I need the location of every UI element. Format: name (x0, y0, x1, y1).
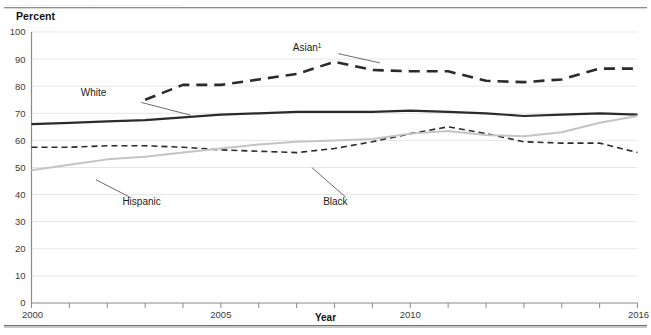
series-lines (32, 62, 638, 170)
x-tick-label-2016: 2016 (628, 309, 649, 320)
y-tick-label-40: 40 (15, 189, 26, 200)
series-annotations: WhiteHispanicBlackAsian1 (81, 42, 380, 208)
series-line-hispanic (32, 116, 638, 170)
series-label-white: White (81, 87, 107, 98)
x-tick-label-2000: 2000 (22, 309, 43, 320)
leader-line-black (312, 168, 346, 198)
leader-line-asian (338, 54, 380, 63)
x-axis: 2000200520102016 (22, 303, 649, 320)
y-tick-label-60: 60 (15, 135, 26, 146)
series-label-hispanic: Hispanic (122, 196, 160, 207)
chart-figure: …………………………………………………………… Percent Year 010… (0, 0, 651, 335)
x-tick-label-2010: 2010 (400, 309, 421, 320)
bottom-divider-rule (4, 325, 647, 328)
series-line-white (32, 111, 638, 125)
y-axis: 0102030405060708090100 (10, 26, 32, 308)
series-label-black: Black (323, 196, 348, 207)
y-tick-label-20: 20 (15, 243, 26, 254)
asian-footnote-marker: 1 (318, 42, 322, 49)
y-tick-label-70: 70 (15, 108, 26, 119)
y-tick-label-10: 10 (15, 270, 26, 281)
y-tick-label-0: 0 (20, 297, 25, 308)
y-tick-label-90: 90 (15, 54, 26, 65)
y-tick-label-100: 100 (10, 26, 26, 37)
x-tick-label-2005: 2005 (210, 309, 231, 320)
line-chart-plot: 0102030405060708090100 2000200520102016 … (0, 0, 651, 335)
series-label-asian: Asian1 (293, 42, 322, 53)
series-line-asian (145, 62, 637, 100)
gridlines (32, 32, 638, 276)
y-tick-label-30: 30 (15, 216, 26, 227)
y-tick-label-80: 80 (15, 81, 26, 92)
y-tick-label-50: 50 (15, 162, 26, 173)
